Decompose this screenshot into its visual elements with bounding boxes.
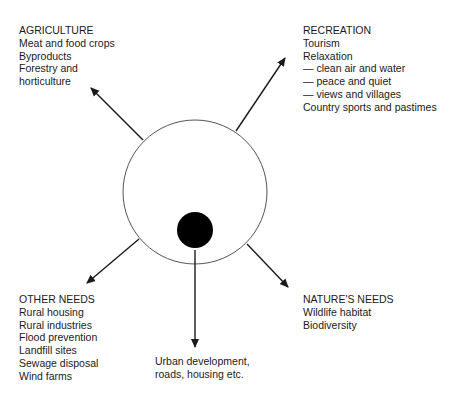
recreation-item: — views and villages	[303, 88, 437, 101]
recreation-block: RECREATION Tourism Relaxation — clean ai…	[303, 24, 437, 114]
other-needs-item: Landfill sites	[19, 344, 98, 357]
agriculture-block: AGRICULTURE Meat and food crops Byproduc…	[19, 24, 115, 88]
natures-needs-item: Wildlife habitat	[303, 306, 394, 319]
arrow-recreation	[236, 58, 285, 131]
agriculture-item: horticulture	[19, 75, 115, 88]
other-needs-item: Flood prevention	[19, 331, 98, 344]
other-needs-item: Rural industries	[19, 319, 98, 332]
other-needs-item: Sewage disposal	[19, 357, 98, 370]
urban-item: Urban development,	[155, 355, 250, 368]
other-needs-item: Wind farms	[19, 370, 98, 383]
other-needs-item: Rural housing	[19, 306, 98, 319]
recreation-item: Country sports and pastimes	[303, 101, 437, 114]
other-needs-block: OTHER NEEDS Rural housing Rural industri…	[19, 293, 98, 383]
recreation-item: — peace and quiet	[303, 75, 437, 88]
recreation-item: Relaxation	[303, 50, 437, 63]
natures-needs-item: Biodiversity	[303, 319, 394, 332]
agriculture-item: Forestry and	[19, 62, 115, 75]
agriculture-heading: AGRICULTURE	[19, 24, 115, 37]
recreation-item: Tourism	[303, 37, 437, 50]
urban-item: roads, housing etc.	[155, 368, 250, 381]
other-needs-heading: OTHER NEEDS	[19, 293, 98, 306]
natures-needs-block: NATURE'S NEEDS Wildlife habitat Biodiver…	[303, 293, 394, 331]
urban-development-block: Urban development, roads, housing etc.	[155, 355, 250, 381]
arrow-agriculture	[91, 88, 143, 140]
natures-needs-heading: NATURE'S NEEDS	[303, 293, 394, 306]
arrow-other-needs	[87, 239, 139, 283]
arrow-natures-needs	[247, 244, 288, 287]
agriculture-item: Meat and food crops	[19, 37, 115, 50]
agriculture-item: Byproducts	[19, 50, 115, 63]
recreation-item: — clean air and water	[303, 62, 437, 75]
recreation-heading: RECREATION	[303, 24, 437, 37]
center-dot	[177, 212, 213, 248]
